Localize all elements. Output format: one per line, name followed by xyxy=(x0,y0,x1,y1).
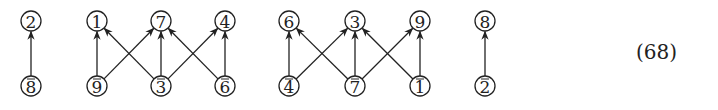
node-label: 9 xyxy=(92,77,103,97)
node-8: 8 xyxy=(475,11,495,32)
node-label: 6 xyxy=(220,77,231,97)
nodes-group: 2817493663947182 xyxy=(21,11,495,97)
node-bar-6: 6 xyxy=(215,76,235,97)
node-bar-9: 9 xyxy=(87,76,107,97)
edges-group xyxy=(31,28,485,79)
node-label: 6 xyxy=(284,12,295,32)
node-bar-2: 2 xyxy=(475,76,495,97)
node-9: 9 xyxy=(410,11,430,32)
node-bar-1: 1 xyxy=(410,76,430,97)
equation-number: (68) xyxy=(636,40,677,64)
node-label: 1 xyxy=(92,12,103,32)
node-label: 1 xyxy=(415,77,426,97)
node-label: 3 xyxy=(350,12,361,32)
node-bar-8: 8 xyxy=(21,76,41,97)
node-label: 4 xyxy=(220,12,231,32)
node-label: 8 xyxy=(26,77,37,97)
node-label: 8 xyxy=(480,12,491,32)
node-6: 6 xyxy=(279,11,299,32)
node-3: 3 xyxy=(345,11,365,32)
hasse-diagram: 2817493663947182 xyxy=(0,0,718,110)
node-bar-3: 3 xyxy=(151,76,171,97)
node-label: 2 xyxy=(480,77,491,97)
node-2: 2 xyxy=(21,11,41,32)
node-label: 4 xyxy=(284,77,295,97)
node-label: 7 xyxy=(156,12,167,32)
node-bar-7: 7 xyxy=(345,76,365,97)
node-bar-4: 4 xyxy=(279,76,299,97)
node-label: 3 xyxy=(156,77,167,97)
node-label: 7 xyxy=(350,77,361,97)
node-7: 7 xyxy=(151,11,171,32)
node-1: 1 xyxy=(87,11,107,32)
node-label: 2 xyxy=(26,12,37,32)
node-label: 9 xyxy=(415,12,426,32)
node-4: 4 xyxy=(215,11,235,32)
